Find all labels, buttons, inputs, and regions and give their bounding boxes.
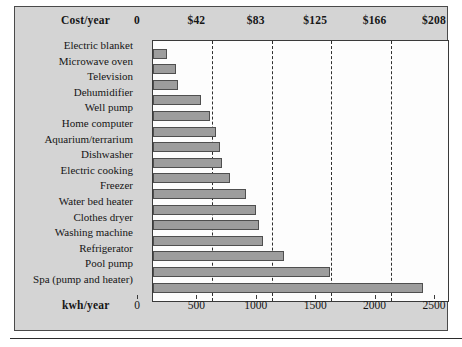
kwh-axis-tick-label: 0 xyxy=(134,299,140,311)
cost-per-year-axis: Cost/year0$42$83$125$166$208 xyxy=(0,14,462,32)
category-label: Dishwasher xyxy=(81,149,133,160)
cost-axis-tick-label: $208 xyxy=(422,14,446,26)
cost-axis-tick-label: $83 xyxy=(247,14,265,26)
kwh-axis-title: kwh/year xyxy=(62,299,110,311)
kwh-per-year-axis: kwh/year05001000150020002500 xyxy=(0,299,462,317)
bar xyxy=(153,205,256,215)
category-label: Clothes dryer xyxy=(73,212,133,223)
category-label: Electric cooking xyxy=(61,165,133,176)
gridline xyxy=(272,41,273,301)
page-rule xyxy=(10,338,462,339)
bar xyxy=(153,220,259,230)
category-label: Water bed heater xyxy=(59,196,133,207)
bar xyxy=(153,64,176,74)
gridline xyxy=(212,41,213,301)
kwh-axis-tick-label: 1500 xyxy=(304,299,327,311)
bar xyxy=(153,251,284,261)
gridline xyxy=(391,41,392,301)
bar xyxy=(153,283,423,293)
bar xyxy=(153,49,167,59)
category-label: Spa (pump and heater) xyxy=(33,274,133,285)
kwh-axis-tick-label: 2500 xyxy=(423,299,446,311)
bar xyxy=(153,80,178,90)
kwh-axis-tick-label: 500 xyxy=(188,299,205,311)
appliance-energy-cost-chart: Cost/year0$42$83$125$166$208Electric bla… xyxy=(0,0,462,347)
cost-axis-tick-label: $42 xyxy=(187,14,205,26)
category-label: Electric blanket xyxy=(64,40,133,51)
kwh-axis-tick-label: 1000 xyxy=(244,299,267,311)
category-label: Television xyxy=(87,71,133,82)
category-label: Pool pump xyxy=(85,258,133,269)
bar xyxy=(153,142,220,152)
bar xyxy=(153,267,330,277)
bar xyxy=(153,95,201,105)
kwh-axis-tick-label: 2000 xyxy=(363,299,386,311)
category-label: Freezer xyxy=(100,180,133,191)
cost-axis-tick-label: $125 xyxy=(303,14,327,26)
bar xyxy=(153,111,210,121)
gridline xyxy=(331,41,332,301)
category-label: Home computer xyxy=(62,118,133,129)
cost-axis-tick-label: $166 xyxy=(363,14,387,26)
plot-area xyxy=(152,40,449,302)
bar xyxy=(153,189,246,199)
bar xyxy=(153,158,222,168)
category-label: Washing machine xyxy=(55,227,133,238)
bar xyxy=(153,173,230,183)
cost-axis-title: Cost/year xyxy=(61,14,110,26)
category-label: Microwave oven xyxy=(59,56,133,67)
bar xyxy=(153,127,216,137)
bar xyxy=(153,236,263,246)
cost-axis-tick-label: 0 xyxy=(134,14,140,26)
category-label: Aquarium/terrarium xyxy=(44,134,133,145)
category-label: Dehumidifier xyxy=(74,87,133,98)
category-label: Refrigerator xyxy=(79,243,133,254)
category-label: Well pump xyxy=(85,102,133,113)
